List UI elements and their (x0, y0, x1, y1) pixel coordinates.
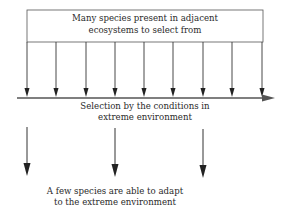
result-label-line2: to the extreme environment (30, 197, 200, 208)
down-arrow-icon (24, 127, 31, 176)
upper-arrows (25, 42, 265, 97)
result-label: A few species are able to adapt to the e… (30, 186, 200, 208)
down-arrow-icon (230, 42, 235, 97)
down-arrow-icon (112, 128, 119, 177)
down-arrow-icon (200, 129, 207, 178)
down-arrow-icon (54, 42, 59, 97)
selection-label-line1: Selection by the conditions in (30, 101, 260, 112)
lower-arrows (24, 127, 207, 178)
selection-label: Selection by the conditions in extreme e… (30, 101, 260, 123)
down-arrow-icon (201, 42, 206, 97)
down-arrow-icon (25, 42, 30, 97)
down-arrow-icon (84, 42, 89, 97)
result-label-line1: A few species are able to adapt (30, 186, 200, 197)
species-box-label: Many species present in adjacent ecosyst… (27, 13, 263, 36)
down-arrow-icon (260, 42, 265, 97)
down-arrow-icon (113, 42, 118, 97)
selection-label-line2: extreme environment (30, 112, 260, 123)
species-box-line2: ecosystems to select from (27, 25, 263, 36)
species-box-line1: Many species present in adjacent (27, 13, 263, 24)
down-arrow-icon (171, 42, 176, 97)
right-arrow-icon (262, 95, 275, 102)
down-arrow-icon (142, 42, 147, 97)
